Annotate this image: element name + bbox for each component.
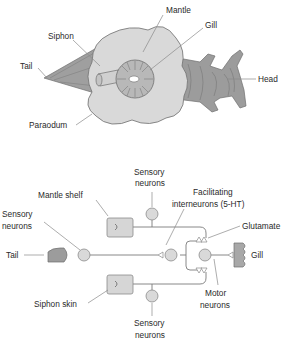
mantle-shelf-box — [107, 218, 133, 237]
label-sensory-left-2: neurons — [2, 221, 32, 231]
label-facilitating-1: Facilitating — [193, 187, 233, 197]
tail-effector — [48, 248, 67, 262]
tail-sensory-neuron — [78, 249, 90, 261]
aplysia-anatomy: Mantle Gill Siphon Tail Head Paraodum — [20, 5, 278, 130]
mantle-sensory-neuron — [146, 208, 158, 220]
label-motor-2: neurons — [200, 300, 230, 310]
label-motor-1: Motor — [205, 288, 226, 298]
label-facilitating-2: interneurons (5-HT) — [172, 199, 245, 209]
label-sensory-left-1: Sensory — [2, 209, 33, 219]
head-shape — [178, 50, 246, 112]
gill-shape — [116, 60, 154, 98]
siphon-skin-box — [107, 275, 133, 294]
label-siphon: Siphon — [48, 31, 74, 41]
label-gill: Gill — [205, 20, 217, 30]
label-paraodum: Paraodum — [29, 120, 67, 130]
label-sensory-top-1: Sensory — [134, 167, 165, 177]
aplysia-diagram: Mantle Gill Siphon Tail Head Paraodum — [0, 0, 298, 343]
neural-circuit: Sensory neurons Mantle shelf Facilitatin… — [2, 167, 281, 340]
label-tail-circuit: Tail — [6, 250, 19, 260]
tail-synapse-terminal — [158, 252, 163, 258]
label-gill-circuit: Gill — [251, 250, 263, 260]
label-siphon-skin: Siphon skin — [34, 299, 77, 309]
facilitating-interneuron — [165, 249, 177, 261]
label-mantle: Mantle — [166, 5, 191, 15]
motor-neuron — [199, 249, 211, 261]
label-sensory-bottom-2: neurons — [135, 330, 165, 340]
label-sensory-top-2: neurons — [135, 178, 165, 188]
label-tail: Tail — [20, 61, 33, 71]
gill-effector — [234, 243, 245, 267]
label-head: Head — [258, 74, 278, 84]
label-sensory-bottom-1: Sensory — [134, 318, 165, 328]
gill-synapse-terminal — [228, 252, 233, 258]
label-mantle-shelf: Mantle shelf — [38, 190, 83, 200]
siphon-sensory-neuron — [146, 290, 158, 302]
label-glutamate: Glutamate — [242, 221, 281, 231]
